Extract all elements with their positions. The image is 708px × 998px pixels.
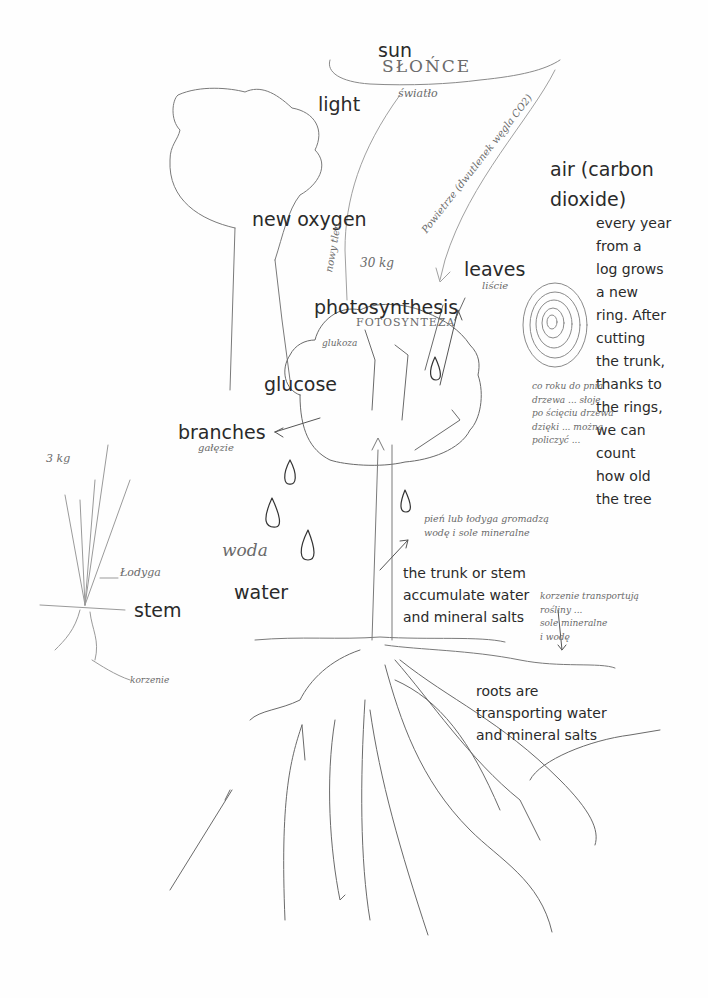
- handwriting-weight-plant: 3 kg: [46, 452, 70, 465]
- handwriting-weight-tree: 30 kg: [360, 256, 394, 270]
- handwriting-slonce: SŁOŃCE: [382, 56, 471, 76]
- handwriting-rings-polish: co roku do pnia drzewa ... słoje po ścię…: [532, 380, 614, 448]
- small-plant-icon: [40, 445, 130, 680]
- handwriting-trunk-polish: pień lub łodyga gromadzą wodę i sole min…: [424, 512, 549, 541]
- handwriting-galezie: gałęzie: [198, 442, 234, 453]
- label-glucose: glucose: [264, 374, 337, 396]
- handwriting-swiatlo: światło: [398, 87, 438, 100]
- label-new-oxygen: new oxygen: [252, 209, 367, 231]
- label-trunk-note: the trunk or stem accumulate water and m…: [403, 562, 529, 628]
- handwriting-fotosynteza: FOTOSYNTEZA: [356, 316, 455, 329]
- label-leaves: leaves: [464, 259, 525, 281]
- label-branches: branches: [178, 422, 266, 444]
- label-roots-note: roots are transporting water and mineral…: [476, 680, 607, 746]
- label-air-carbon-dioxide: air (carbon dioxide): [550, 154, 654, 214]
- tree-rings-icon: [523, 283, 587, 367]
- label-stem: stem: [134, 600, 182, 622]
- handwriting-liscie: liście: [482, 280, 508, 291]
- handwriting-lodyga: Łodyga: [120, 566, 161, 579]
- handwriting-glukoza: glukoza: [322, 338, 357, 348]
- label-water: water: [234, 582, 288, 604]
- tree-trunk-icon: [372, 438, 392, 640]
- handwriting-korzenie: korzenie: [130, 675, 169, 685]
- diagram-canvas: sun light air (carbon dioxide) new oxyge…: [0, 0, 708, 998]
- handwriting-woda: woda: [222, 540, 268, 560]
- label-tree-rings-note: every year from a log grows a new ring. …: [596, 212, 671, 511]
- handwriting-roots-polish: korzenie transportują rośliny ... sole m…: [540, 590, 639, 644]
- label-light: light: [318, 94, 360, 116]
